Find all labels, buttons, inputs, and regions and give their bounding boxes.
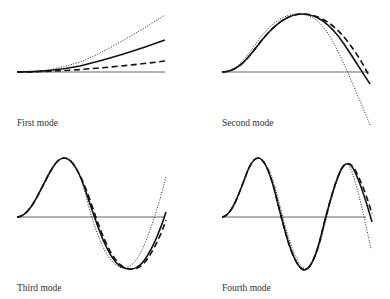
curve-dashed xyxy=(222,14,368,74)
panel-label-fourth: Fourth mode xyxy=(222,283,271,293)
panel-first-mode xyxy=(17,15,165,72)
panel-label-first: First mode xyxy=(17,118,58,128)
curve-solid xyxy=(17,158,166,269)
curve-solid xyxy=(222,14,370,84)
curve-solid xyxy=(17,40,165,72)
curve-dotted xyxy=(222,158,371,268)
panel-label-second: Second mode xyxy=(222,118,273,128)
panel-third-mode xyxy=(17,158,166,269)
curve-dashed xyxy=(222,158,372,270)
panel-fourth-mode xyxy=(222,158,372,270)
mode-shapes-figure xyxy=(0,0,390,299)
curve-dashed xyxy=(17,158,166,269)
curve-dotted xyxy=(17,158,166,268)
curve-dotted xyxy=(222,14,370,125)
panel-second-mode xyxy=(222,14,370,125)
curve-solid xyxy=(222,158,372,270)
panel-label-third: Third mode xyxy=(17,283,62,293)
